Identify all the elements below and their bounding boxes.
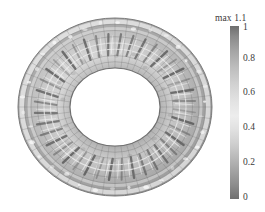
colorbar: max 1.1 1 0.8 0.6 0.4 0.2 0 (214, 0, 265, 212)
colorbar-max-label: max 1.1 (215, 13, 246, 23)
colorbar-gradient-strip (230, 26, 239, 199)
colorbar-tick-0_8: 0.8 (243, 53, 255, 63)
plot-area (0, 0, 218, 212)
colorbar-tick-0_4: 0.4 (243, 122, 255, 132)
figure-root: max 1.1 1 0.8 0.6 0.4 0.2 0 (0, 0, 265, 212)
colorbar-tick-1: 1 (243, 22, 248, 32)
colorbar-tick-0_2: 0.2 (243, 157, 255, 167)
colorbar-tick-0_6: 0.6 (243, 87, 255, 97)
torus-mesh-plot (0, 0, 218, 212)
colorbar-tick-0: 0 (243, 192, 248, 202)
